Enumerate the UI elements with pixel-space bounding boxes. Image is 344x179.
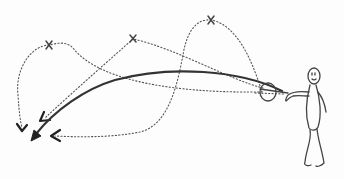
main-arrowhead-icon (31, 130, 41, 141)
throw-paths-diagram (0, 0, 344, 179)
arrowhead-1-icon (17, 124, 27, 131)
dotted-path-3 (55, 20, 262, 137)
waypoint-x-2-icon (130, 35, 136, 42)
waypoint-x-3-icon (208, 16, 214, 24)
stick-figure-icon (286, 68, 326, 166)
ball-throw-line (260, 89, 288, 93)
main-trajectory-path (36, 71, 282, 134)
sketch-canvas (0, 0, 344, 179)
dotted-path-2 (45, 39, 263, 118)
